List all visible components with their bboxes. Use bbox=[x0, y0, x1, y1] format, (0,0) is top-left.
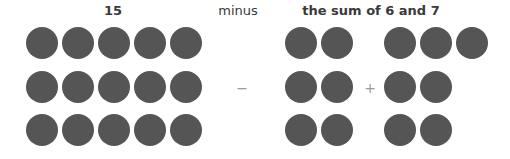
counter-dot bbox=[134, 27, 166, 59]
counter-dot bbox=[384, 114, 416, 146]
counter-dot bbox=[26, 27, 58, 59]
counter-dot bbox=[285, 71, 317, 103]
counter-dot bbox=[321, 114, 353, 146]
plus-sign: + bbox=[364, 81, 376, 95]
counter-dot bbox=[321, 27, 353, 59]
counter-dot bbox=[420, 114, 452, 146]
counter-dot bbox=[62, 71, 94, 103]
counter-dot bbox=[456, 27, 488, 59]
counter-dot bbox=[134, 114, 166, 146]
counter-dot bbox=[384, 27, 416, 59]
counter-dot bbox=[420, 71, 452, 103]
counter-dot bbox=[62, 114, 94, 146]
counter-dot bbox=[170, 71, 202, 103]
counter-dot bbox=[170, 114, 202, 146]
counter-dot bbox=[285, 114, 317, 146]
counter-dot bbox=[420, 27, 452, 59]
label-sum-of-6-and-7: the sum of 6 and 7 bbox=[302, 3, 439, 19]
counter-dot bbox=[134, 71, 166, 103]
counter-dot bbox=[384, 71, 416, 103]
label-minus: minus bbox=[218, 3, 258, 19]
counter-dot bbox=[98, 71, 130, 103]
counter-dot bbox=[26, 71, 58, 103]
counter-dot bbox=[62, 27, 94, 59]
minus-sign: − bbox=[236, 81, 248, 95]
counter-dot bbox=[98, 114, 130, 146]
counter-dot bbox=[26, 114, 58, 146]
counter-dot bbox=[98, 27, 130, 59]
counter-dot bbox=[170, 27, 202, 59]
label-fifteen: 15 bbox=[104, 3, 122, 19]
counter-dot bbox=[285, 27, 317, 59]
counter-dot bbox=[321, 71, 353, 103]
